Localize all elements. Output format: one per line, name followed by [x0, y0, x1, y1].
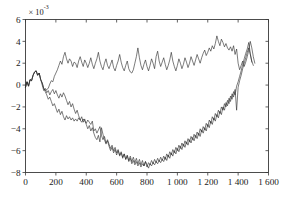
- y-tick-label: 2: [16, 58, 21, 68]
- y-tick-label: −8: [11, 168, 21, 178]
- chart-page: 6420−2−4−6−802004006008001 0001 2001 400…: [0, 0, 284, 201]
- y-tick-label: −4: [11, 124, 21, 134]
- x-tick-label: 600: [110, 177, 124, 187]
- x-tick-label: 1 200: [197, 177, 218, 187]
- plot-background: [0, 0, 284, 201]
- x-tick-label: 0: [23, 177, 28, 187]
- y-tick-label: 4: [16, 37, 21, 47]
- y-tick-label: −2: [11, 102, 21, 112]
- x-tick-label: 1 400: [228, 177, 249, 187]
- y-tick-label: −6: [11, 146, 21, 156]
- line-chart: 6420−2−4−6−802004006008001 0001 2001 400…: [0, 0, 284, 201]
- x-tick-label: 200: [49, 177, 63, 187]
- x-tick-label: 400: [79, 177, 93, 187]
- x-tick-label: 1 600: [258, 177, 279, 187]
- y-tick-label: 6: [16, 15, 21, 25]
- x-tick-label: 800: [140, 177, 154, 187]
- y-tick-label: 0: [16, 80, 21, 90]
- x-tick-label: 1 000: [167, 177, 188, 187]
